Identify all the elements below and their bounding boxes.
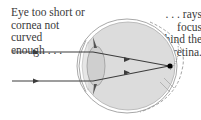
- focus-point-icon: [167, 63, 172, 68]
- eye-diagram: [0, 0, 201, 120]
